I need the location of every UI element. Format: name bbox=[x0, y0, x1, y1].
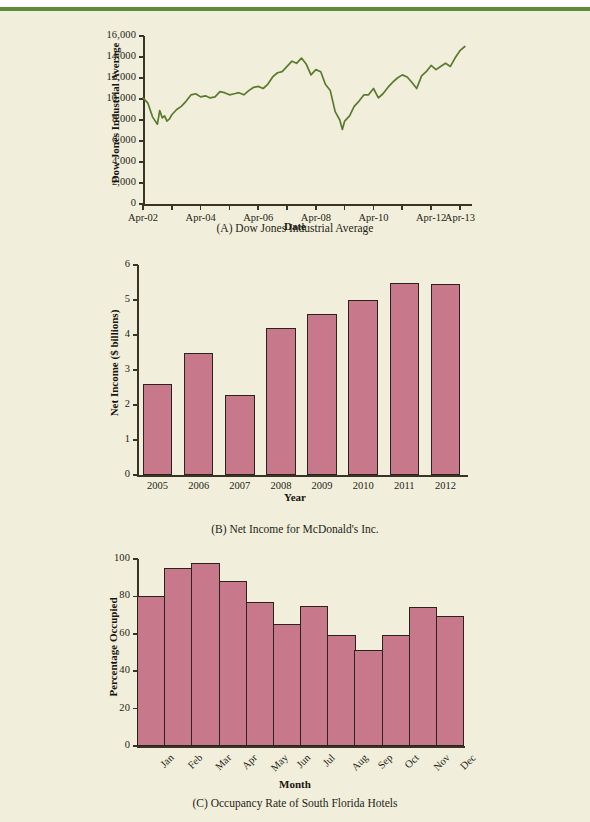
chart-b-y-tick-label: 0 bbox=[107, 468, 130, 479]
chart-c-y-tick-label: 0 bbox=[101, 739, 130, 750]
chart-c-bar bbox=[327, 635, 355, 746]
chart-c-bar bbox=[300, 606, 328, 746]
chart-b-bar bbox=[266, 328, 296, 475]
chart-c-bar bbox=[137, 596, 165, 746]
chart-b-y-axis-title: Net Income ($ billions) bbox=[108, 263, 120, 463]
chart-c-x-tick-label: May bbox=[268, 752, 289, 773]
chart-c-x-tick-label: Mar bbox=[213, 752, 233, 772]
chart-b-bar bbox=[390, 283, 420, 476]
page-top-margin bbox=[0, 0, 590, 7]
chart-a-y-axis-title: Dow Jones Industrial Average bbox=[109, 28, 121, 198]
chart-b-x-axis bbox=[137, 475, 468, 477]
chart-b-bar bbox=[143, 384, 173, 475]
chart-a-plot-area: 02,0004,0006,0008,00010,00012,00014,0001… bbox=[0, 18, 590, 243]
chart-a-caption: (A) Dow Jones Industrial Average bbox=[0, 222, 590, 234]
chart-c-x-tick-label: Jul bbox=[320, 752, 336, 768]
chart-c-x-tick-label: Jun bbox=[294, 752, 312, 770]
chart-b-panel: 012345620052006200720082009201020112012 … bbox=[0, 258, 590, 513]
chart-c-y-axis-title: Percentage Occupied bbox=[107, 557, 119, 737]
chart-c-bar bbox=[219, 581, 247, 746]
chart-c-x-tick-label: Jan bbox=[158, 752, 176, 770]
chart-c-caption: (C) Occupancy Rate of South Florida Hote… bbox=[0, 797, 590, 809]
chart-c-x-tick-label: Oct bbox=[403, 752, 422, 771]
chart-b-y-tick bbox=[133, 474, 138, 476]
chart-b-caption: (B) Net Income for McDonald's Inc. bbox=[0, 523, 590, 535]
chart-c-x-tick-label: Nov bbox=[431, 752, 452, 773]
chart-b-y-tick bbox=[133, 264, 138, 266]
chart-c-x-axis bbox=[137, 746, 465, 748]
chart-c-y-tick bbox=[133, 558, 138, 560]
chart-b-bar bbox=[348, 300, 378, 475]
chart-c-plot-area: 020406080100JanFebMarAprMayJunJulAugSepO… bbox=[0, 552, 590, 802]
chart-c-bar bbox=[191, 563, 219, 746]
chart-a-panel: 02,0004,0006,0008,00010,00012,00014,0001… bbox=[0, 18, 590, 243]
figure-page: 02,0004,0006,0008,00010,00012,00014,0001… bbox=[0, 0, 590, 822]
chart-b-y-tick bbox=[133, 299, 138, 301]
chart-b-bar bbox=[184, 353, 214, 476]
chart-c-x-tick-label: Sep bbox=[376, 752, 395, 771]
chart-b-y-tick bbox=[133, 369, 138, 371]
chart-b-bar bbox=[225, 395, 255, 476]
chart-c-x-tick-label: Dec bbox=[458, 752, 478, 772]
chart-c-x-tick-label: Feb bbox=[186, 752, 205, 771]
chart-b-plot-area: 012345620052006200720082009201020112012 bbox=[0, 258, 590, 513]
chart-c-bar bbox=[246, 602, 274, 746]
page-top-rule bbox=[0, 7, 590, 11]
chart-c-x-axis-title: Month bbox=[0, 778, 590, 790]
chart-a-line-series bbox=[0, 18, 590, 243]
chart-b-y-tick bbox=[133, 439, 138, 441]
chart-c-bar bbox=[354, 650, 382, 746]
chart-b-x-tick-label: 2012 bbox=[419, 480, 471, 491]
chart-b-y-tick bbox=[133, 404, 138, 406]
chart-c-bar bbox=[382, 635, 410, 746]
chart-c-panel: 020406080100JanFebMarAprMayJunJulAugSepO… bbox=[0, 552, 590, 802]
chart-b-x-axis-title: Year bbox=[0, 491, 590, 503]
chart-c-x-tick-label: Apr bbox=[240, 752, 259, 771]
chart-c-bar bbox=[436, 616, 464, 746]
chart-c-bar bbox=[164, 568, 192, 746]
chart-b-y-tick bbox=[133, 334, 138, 336]
chart-c-x-tick-label: Aug bbox=[349, 752, 370, 773]
chart-b-bar bbox=[307, 314, 337, 475]
chart-b-bar bbox=[431, 284, 461, 475]
chart-c-bar bbox=[409, 607, 437, 746]
chart-c-bar bbox=[273, 624, 301, 746]
